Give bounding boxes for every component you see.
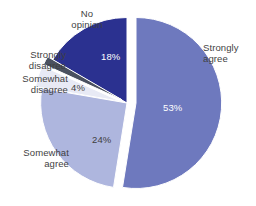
slice-value-no-opinion: 18% — [101, 52, 120, 62]
slice-label-strongly-disagree: Strongly disagree — [0, 49, 66, 71]
slice-label-strongly-agree: Strongly agree — [203, 42, 256, 64]
pie-chart: No opinion Strongly disagree Somewhat di… — [0, 0, 256, 206]
slice-value-strongly-agree: 53% — [163, 103, 182, 113]
slice-value-somewhat-disagree: 4% — [71, 83, 85, 93]
slice-label-somewhat-disagree: Somewhat disagree — [0, 73, 68, 95]
slice-label-no-opinion: No opinion — [57, 8, 117, 30]
pie-chart-canvas — [0, 0, 256, 206]
slice-value-somewhat-agree: 24% — [92, 135, 111, 145]
slice-label-somewhat-agree: Somewhat agree — [0, 147, 69, 169]
pie-slice-somewhat-agree[interactable] — [41, 88, 127, 187]
